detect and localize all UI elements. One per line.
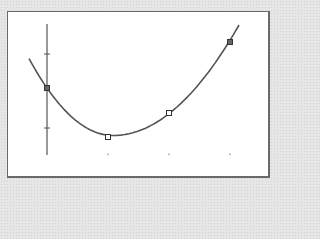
data-point-marker [106,135,111,140]
x-tick [169,154,170,156]
data-point-marker [228,40,233,45]
data-point-marker [167,111,172,116]
data-point-marker [45,86,50,91]
data-points [45,40,233,140]
x-tick [108,154,109,156]
x-ticks [108,154,231,156]
chart-plot [0,0,282,188]
fit-curve [29,25,239,136]
x-tick [230,154,231,156]
